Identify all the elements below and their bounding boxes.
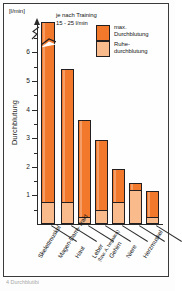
- bar-niere: [129, 183, 142, 224]
- bar-rest-segment: [96, 210, 107, 223]
- y-tick-label: 6: [18, 48, 30, 55]
- legend: max. Durchblutung Ruhe- durchblutung: [96, 24, 168, 58]
- y-tick-label: 5: [18, 77, 30, 84]
- annotation-line-2: 15 - 25 l/min: [56, 20, 88, 26]
- legend-item-max: max. Durchblutung: [96, 24, 168, 41]
- figure-caption: 4 Durchblutibi: [6, 279, 39, 285]
- bar-magen-darm-trakt: [61, 69, 74, 224]
- x-axis-label-niere: Niere: [125, 244, 138, 260]
- y-tick-label: 1: [18, 191, 30, 198]
- legend-label-rest-line1: Ruhe-: [114, 41, 130, 47]
- annotation-line-1: je nach Training: [56, 12, 97, 18]
- legend-label-max-line1: max.: [114, 24, 127, 30]
- y-tick-label: 4: [18, 106, 30, 113]
- legend-label-rest-line2: durchblutung: [114, 48, 147, 54]
- legend-label-rest: Ruhe- durchblutung: [114, 41, 147, 56]
- legend-label-max: max. Durchblutung: [114, 24, 148, 39]
- bar-rest-segment: [42, 202, 54, 223]
- bar-herzmuskel: [146, 191, 159, 224]
- legend-swatch-rest-icon: [96, 41, 110, 57]
- y-tick-label: 3: [18, 134, 30, 141]
- bar-haut: [78, 120, 91, 224]
- legend-label-max-line2: Durchblutung: [114, 31, 148, 37]
- bar-highlight: [43, 23, 45, 223]
- annotation-callout: je nach Training 15 - 25 l/min: [56, 12, 97, 27]
- legend-swatch-max-icon: [96, 25, 110, 41]
- legend-item-rest: Ruhe- durchblutung: [96, 41, 168, 58]
- x-axis-category-labels: SkelettmuskelMagen-Darm-TraktHautLeber(b…: [0, 224, 175, 286]
- bar-rest-segment: [130, 190, 141, 223]
- x-axis-label-text: Haut: [73, 245, 86, 259]
- y-axis-unit-label: [l/min]: [9, 7, 25, 14]
- bar-skelettmuskel: [41, 22, 55, 224]
- bar-highlight: [63, 70, 65, 223]
- bar-highlight: [80, 121, 82, 223]
- bar-rest-segment: [113, 202, 124, 223]
- y-tick-label: 2: [18, 163, 30, 170]
- y-axis-title: Durchblutung: [10, 86, 19, 160]
- x-axis-label-text: Niere: [124, 243, 138, 259]
- bar-leber: [95, 140, 108, 224]
- x-axis-label-haut: Haut: [74, 245, 86, 259]
- figure-root: [l/min] Durchblutung 123456 je nach Trai…: [0, 0, 175, 291]
- bar-axis-break-icon: [42, 35, 56, 49]
- bar-rest-segment: [147, 217, 158, 223]
- bar-rest-segment: [62, 202, 73, 223]
- bar-gehirn: [112, 169, 125, 224]
